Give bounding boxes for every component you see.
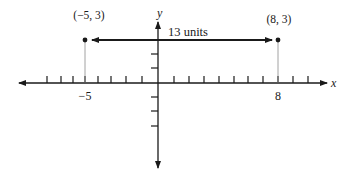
- coordinate-plane: x y −5 8 (−5, 3) (8, 3) 13 units: [0, 0, 345, 178]
- tick-label-8: 8: [275, 89, 281, 103]
- point-b: [276, 38, 281, 43]
- x-axis-ticks: [47, 76, 308, 83]
- tick-label-neg5: −5: [79, 89, 92, 103]
- point-b-label: (8, 3): [267, 13, 292, 26]
- y-axis-label: y: [156, 6, 163, 20]
- y-axis-ticks: [151, 54, 158, 126]
- x-axis-label: x: [330, 76, 337, 90]
- point-a-label: (−5, 3): [73, 9, 105, 22]
- point-a: [83, 38, 88, 43]
- distance-label: 13 units: [168, 25, 208, 39]
